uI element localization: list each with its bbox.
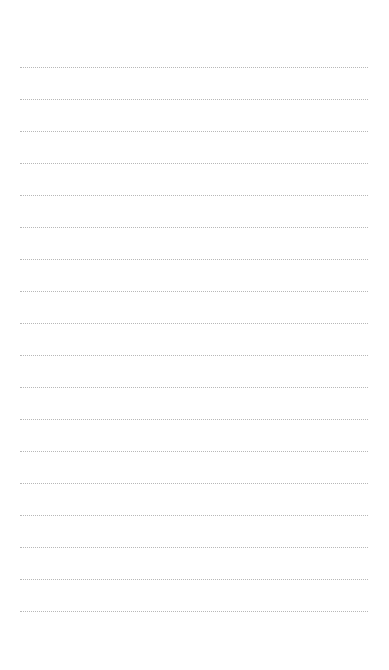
ruled-line[interactable] xyxy=(20,579,368,580)
notepad-page[interactable] xyxy=(0,0,389,670)
ruled-line[interactable] xyxy=(20,291,368,292)
ruled-line[interactable] xyxy=(20,67,368,68)
ruled-line[interactable] xyxy=(20,355,368,356)
ruled-line[interactable] xyxy=(20,131,368,132)
ruled-line[interactable] xyxy=(20,547,368,548)
ruled-line[interactable] xyxy=(20,195,368,196)
ruled-line[interactable] xyxy=(20,387,368,388)
ruled-line[interactable] xyxy=(20,515,368,516)
ruled-line[interactable] xyxy=(20,259,368,260)
ruled-line[interactable] xyxy=(20,323,368,324)
ruled-line[interactable] xyxy=(20,227,368,228)
ruled-line[interactable] xyxy=(20,451,368,452)
ruled-line[interactable] xyxy=(20,99,368,100)
ruled-line[interactable] xyxy=(20,419,368,420)
ruled-line[interactable] xyxy=(20,611,368,612)
ruled-line[interactable] xyxy=(20,163,368,164)
ruled-lines xyxy=(20,0,368,670)
ruled-line[interactable] xyxy=(20,483,368,484)
